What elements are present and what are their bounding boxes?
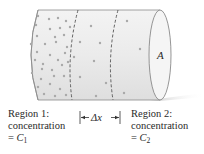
region-1-concentration-value: = C1 <box>8 132 27 144</box>
region-1-concentration-text: concentration <box>8 120 65 132</box>
subscript: 2 <box>147 136 151 145</box>
region-1-title: Region 1: <box>8 108 49 120</box>
area-label: A <box>157 50 164 62</box>
delta-x-label: Δx <box>91 112 102 124</box>
region-2-concentration-text: concentration <box>131 120 188 132</box>
concentration-symbol: C <box>17 132 24 143</box>
subscript: 1 <box>24 136 28 145</box>
region-2-concentration-value: = C2 <box>131 132 150 144</box>
equals-sign: = <box>131 132 140 143</box>
concentration-symbol: C <box>140 132 147 143</box>
region-2-title: Region 2: <box>131 108 172 120</box>
equals-sign: = <box>8 132 17 143</box>
